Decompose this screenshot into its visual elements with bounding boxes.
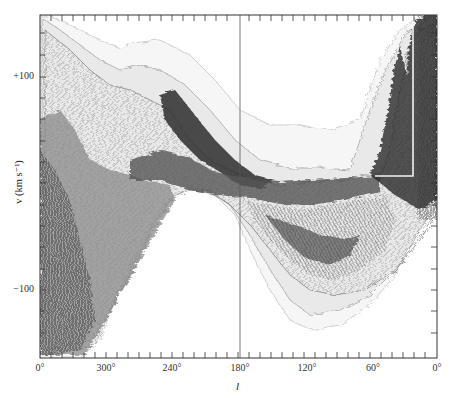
x-tick-label-360: 0° bbox=[36, 362, 45, 373]
x-tick-label-180: 180° bbox=[231, 362, 250, 373]
x-axis-label: l bbox=[236, 380, 239, 392]
y-tick-label-minus100: −100 bbox=[0, 283, 34, 294]
x-tick-label-0: 0° bbox=[433, 362, 442, 373]
right-edge-streaks bbox=[418, 15, 437, 220]
lv-diagram-figure: 0° 300° 240° 180° 120° 60° 0° +100 0 −10… bbox=[0, 0, 453, 398]
contour-layers bbox=[40, 15, 437, 358]
x-tick-label-60: 60° bbox=[366, 362, 380, 373]
x-tick-label-300: 300° bbox=[97, 362, 116, 373]
plot-area bbox=[0, 0, 453, 398]
x-tick-label-120: 120° bbox=[298, 362, 317, 373]
y-axis-label: v (km s⁻¹) bbox=[12, 152, 24, 212]
y-tick-label-plus100: +100 bbox=[0, 70, 34, 81]
x-tick-label-240: 240° bbox=[163, 362, 182, 373]
